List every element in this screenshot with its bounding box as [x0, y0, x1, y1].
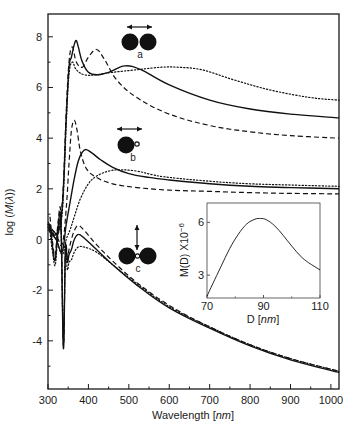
figure: 3004005006007008009001000 -4-202468 Wave…: [0, 0, 355, 430]
main-x-axis-label: Wavelength [nm]: [152, 409, 234, 421]
x-tick-label: 90: [257, 300, 269, 312]
x-tick-label: 600: [160, 394, 178, 406]
y-tick-label: 4: [36, 132, 42, 144]
label-a: a: [137, 49, 143, 60]
dimer-c-icon: c: [119, 225, 157, 274]
y-tick-label: 3: [198, 269, 204, 281]
x-tick-label: 1000: [319, 394, 343, 406]
x-tick-label: 500: [120, 394, 138, 406]
x-tick-label: 900: [281, 394, 299, 406]
x-tick-label: 110: [311, 300, 329, 312]
dimer-b-icon: b: [117, 127, 142, 164]
y-tick-label: 2: [36, 183, 42, 195]
main-y-axis: -4-202468: [32, 31, 53, 366]
x-tick-label: 700: [200, 394, 218, 406]
y-tick-label: 8: [36, 31, 42, 43]
inset-y-axis-label: M(D) X10−6: [177, 222, 190, 277]
x-tick-label: 300: [39, 394, 57, 406]
main-x-axis: 3004005006007008009001000: [39, 384, 343, 406]
main-y-axis-label: log (M(λ)): [3, 189, 15, 236]
y-tick-label: -2: [32, 284, 42, 296]
inset-plot: 7090110 36 D [nm] M(D) X10−6: [177, 203, 329, 325]
x-tick-label: 70: [201, 300, 213, 312]
y-tick-label: -4: [32, 335, 42, 347]
dimer-a-icon: a: [122, 25, 157, 61]
y-tick-label: 6: [36, 81, 42, 93]
inset-frame: [207, 203, 320, 298]
y-tick-label: 6: [198, 216, 204, 228]
label-c: c: [136, 263, 141, 274]
label-b: b: [130, 152, 136, 163]
main-plot-frame: [48, 14, 339, 389]
inset-x-axis-label: D [nm]: [247, 313, 279, 325]
x-tick-label: 800: [241, 394, 259, 406]
y-tick-label: 0: [36, 234, 42, 246]
x-tick-label: 400: [79, 394, 97, 406]
